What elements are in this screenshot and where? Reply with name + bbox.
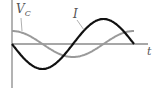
phase-diagram: VC I t [0,0,162,92]
current-label: I [73,8,78,20]
time-axis-label: t [147,46,151,57]
vc-label-subscript: C [25,9,31,18]
vc-label: VC [16,3,31,18]
vc-label-main: V [16,2,25,16]
vc-leader-line [21,18,22,31]
current-leader-line [77,20,84,30]
